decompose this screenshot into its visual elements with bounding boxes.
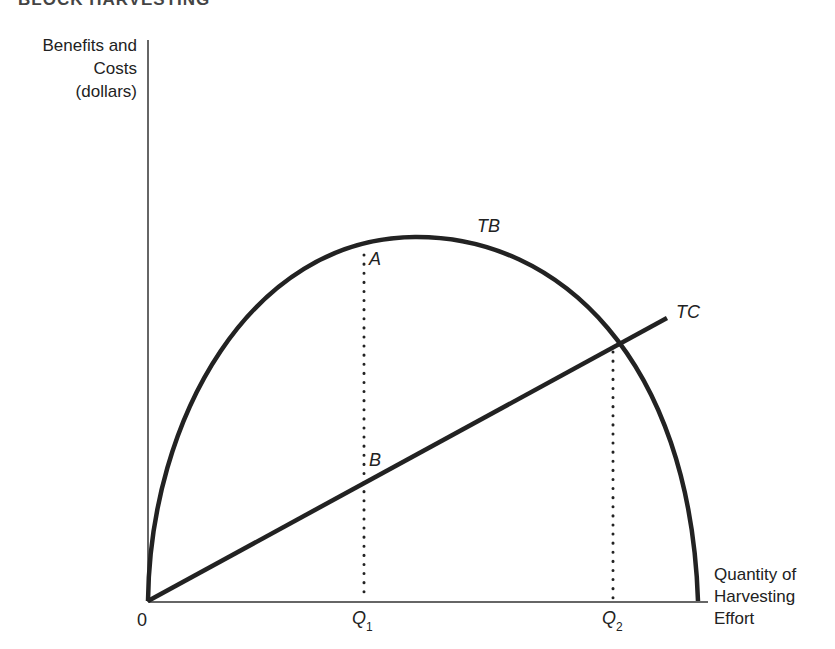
q1-label: Q1 bbox=[352, 608, 373, 632]
tc-line bbox=[148, 318, 667, 601]
tb-curve bbox=[148, 237, 698, 601]
tb-label: TB bbox=[477, 216, 500, 237]
q1-main: Q bbox=[352, 608, 366, 628]
x-axis-label-line-2: Harvesting bbox=[714, 586, 796, 608]
q1-subscript: 1 bbox=[366, 620, 373, 634]
chart-canvas bbox=[0, 0, 835, 649]
point-a-label: A bbox=[369, 249, 381, 270]
q2-main: Q bbox=[602, 608, 616, 628]
origin-label: 0 bbox=[137, 610, 147, 631]
q2-subscript: 2 bbox=[616, 620, 623, 634]
point-b-label: B bbox=[369, 450, 381, 471]
tc-label: TC bbox=[676, 302, 700, 323]
x-axis-label-line-1: Quantity of bbox=[714, 564, 796, 586]
x-axis-label-line-3: Effort bbox=[714, 608, 796, 630]
x-axis-label: Quantity of Harvesting Effort bbox=[714, 564, 796, 630]
q2-label: Q2 bbox=[602, 608, 623, 632]
